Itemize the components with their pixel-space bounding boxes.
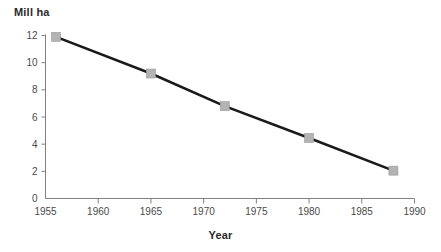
x-axis-tick-label: 1985 [351, 206, 374, 217]
x-axis-tick-label: 1970 [193, 206, 216, 217]
data-point-marker [52, 32, 61, 41]
y-axis-tick-label: 8 [32, 84, 38, 95]
chart-container: Mill ha 024681012 1955196019651970197519… [0, 0, 441, 252]
y-axis-tick-label: 12 [26, 30, 38, 41]
data-point-marker [389, 166, 398, 175]
x-axis-tick-label: 1975 [245, 206, 268, 217]
y-axis-tick-label: 6 [32, 112, 38, 123]
data-point-marker [220, 102, 229, 111]
y-axis-tick-label: 0 [32, 193, 38, 204]
x-axis-tick-label: 1955 [34, 206, 57, 217]
x-axis-tick-label: 1980 [298, 206, 321, 217]
y-axis-tick-label: 4 [32, 139, 38, 150]
data-point-marker [305, 134, 314, 143]
x-axis-tick-label: 1960 [87, 206, 110, 217]
y-axis-tick-group: 024681012 [26, 30, 45, 204]
x-axis-tick-label: 1990 [403, 206, 426, 217]
x-axis-title: Year [0, 229, 441, 241]
data-marker-group [52, 32, 398, 175]
plot-area: 024681012 195519601965197019751980198519… [0, 0, 441, 252]
data-point-marker [146, 69, 155, 78]
y-axis-tick-label: 2 [32, 166, 38, 177]
x-axis-tick-group: 19551960196519701975198019851990 [34, 199, 426, 217]
x-axis-tick-label: 1965 [140, 206, 163, 217]
y-axis-tick-label: 10 [26, 57, 38, 68]
